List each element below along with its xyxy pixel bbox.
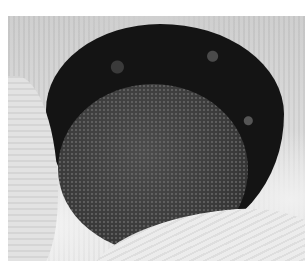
photo <box>8 16 305 261</box>
